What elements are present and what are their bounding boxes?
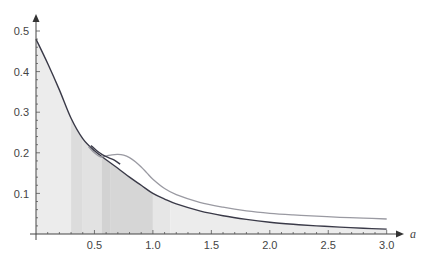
- x-tick-labels: 0.5 1.0 1.5 2.0 2.5 3.0: [87, 239, 394, 251]
- y-tick-label: 0.3: [14, 106, 29, 118]
- y-tick-label: 0.4: [14, 66, 29, 78]
- y-tick-label: 0.2: [14, 147, 29, 159]
- shaded-band: [36, 10, 71, 234]
- shaded-band: [101, 10, 110, 234]
- x-axis-arrow-icon: [396, 231, 404, 238]
- x-tick-label: 3.0: [379, 239, 394, 251]
- x-tick-label: 2.5: [321, 239, 336, 251]
- x-axis-label: a: [410, 227, 416, 241]
- x-tick-label: 1.5: [204, 239, 219, 251]
- x-tick-label: 2.0: [262, 239, 277, 251]
- shaded-band: [111, 10, 153, 234]
- y-tick-label: 0.5: [14, 25, 29, 37]
- x-tick-label: 0.5: [87, 239, 102, 251]
- y-axis-arrow-icon: [33, 14, 40, 22]
- y-tick-labels: 0.1 0.2 0.3 0.4 0.5: [14, 25, 29, 199]
- shaded-band: [170, 10, 386, 234]
- shaded-band: [83, 10, 102, 234]
- chart: 0.5 1.0 1.5 2.0 2.5 3.0 0.1 0.2 0.3 0.4 …: [0, 0, 427, 264]
- shaded-bands: [36, 10, 387, 234]
- y-tick-label: 0.1: [14, 188, 29, 200]
- x-tick-label: 1.0: [145, 239, 160, 251]
